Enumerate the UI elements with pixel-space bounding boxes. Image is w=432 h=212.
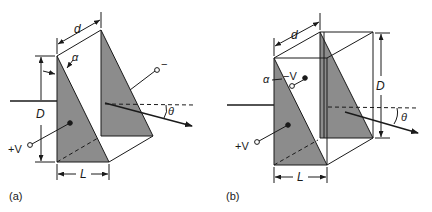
label-d-a: d — [74, 22, 81, 36]
label-minus-v-b: −V — [283, 70, 297, 82]
prism-deflector-diagram: d D L α θ +V − (a) — [0, 0, 432, 212]
negative-contact-dot-b — [303, 76, 308, 81]
label-alpha-a: α — [72, 51, 79, 63]
label-theta-a: θ — [168, 105, 174, 117]
label-L-b: L — [297, 170, 304, 184]
positive-terminal-a — [28, 143, 33, 148]
positive-contact-dot-a — [68, 121, 73, 126]
front-prism-b — [274, 58, 327, 165]
label-L-a: L — [80, 167, 87, 181]
negative-lead-a — [130, 71, 155, 90]
caption-a: (a) — [9, 190, 22, 202]
label-minus-a: − — [161, 58, 167, 70]
box-bottom-right-edge-b — [327, 138, 373, 165]
positive-contact-dot-b — [286, 123, 291, 128]
theta-arc-b — [394, 108, 398, 124]
caption-b: (b) — [226, 190, 239, 202]
theta-arc-a — [164, 105, 167, 118]
panel-a — [10, 12, 195, 180]
label-theta-b: θ — [401, 111, 407, 123]
label-D-a: D — [36, 107, 45, 121]
back-prism-a — [101, 30, 153, 136]
panel-b — [227, 13, 418, 183]
positive-terminal-b — [255, 140, 260, 145]
label-alpha-b: α — [263, 73, 270, 85]
label-D-b: D — [376, 79, 385, 93]
label-d-b: d — [291, 28, 298, 42]
negative-terminal-a — [155, 68, 160, 73]
alpha-pointer-left-a — [43, 71, 55, 74]
label-plus-v-a: +V — [8, 143, 22, 155]
negative-terminal-b — [290, 84, 295, 89]
bottom-right-edge-a — [109, 136, 153, 162]
back-prism-b — [320, 32, 373, 138]
label-plus-v-b: +V — [235, 140, 249, 152]
